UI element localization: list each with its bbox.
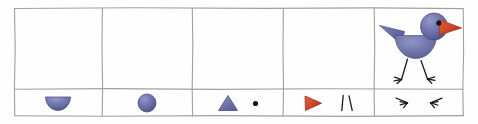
- figure-root: [0, 0, 478, 124]
- cell-top-2: [102, 7, 192, 89]
- cell-top-4: [283, 7, 374, 89]
- bird-beak-triangle: [439, 20, 462, 36]
- bird-head-circle: [421, 13, 448, 40]
- bird-eye-dot: [436, 20, 441, 25]
- bird-wing-triangle: [380, 26, 405, 45]
- half-circle-shape: [44, 95, 72, 112]
- cell-bottom-2: [102, 89, 192, 117]
- foot-right-shape: [426, 96, 444, 110]
- part-beak-and-legs: [283, 89, 374, 117]
- part-head: [102, 89, 192, 117]
- legs-lines-shape: [339, 94, 355, 112]
- bird-body-half-circle: [395, 36, 437, 59]
- circle-shape: [137, 93, 157, 113]
- shape-table: [14, 7, 464, 117]
- cell-bottom-1: [14, 89, 102, 117]
- cell-bottom-3: [192, 89, 283, 117]
- assembled-bird-illustration: [377, 11, 463, 89]
- triangle-shape: [217, 94, 239, 112]
- part-body: [14, 89, 102, 117]
- part-wing-and-eye: [192, 89, 283, 117]
- cell-bottom-4: [283, 89, 374, 117]
- cell-bottom-5: [374, 89, 464, 117]
- bird-legs: [394, 59, 435, 84]
- cell-top-3: [192, 7, 283, 89]
- cell-top-1: [14, 7, 102, 89]
- dot-shape: [252, 100, 259, 107]
- part-feet: [374, 89, 464, 117]
- beak-triangle-shape: [303, 94, 323, 112]
- foot-left-shape: [394, 96, 412, 110]
- cell-top-5: [374, 7, 464, 89]
